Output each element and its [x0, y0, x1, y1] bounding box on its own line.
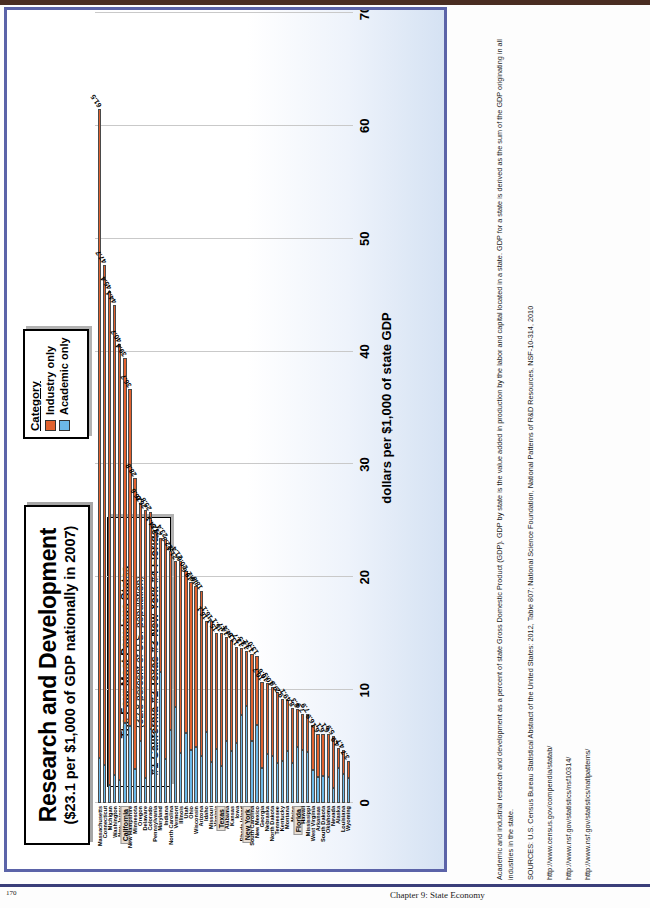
bar-row: 9.8Tennessee: [276, 692, 279, 803]
bar-row: 8.3Florida: [296, 709, 299, 803]
bar-segment-academic-only: [154, 732, 157, 803]
footnote-definition: Academic and industrial research and dev…: [494, 34, 517, 880]
page-bottom-rule: [0, 884, 650, 887]
bar-row: 19.6Ohio: [189, 582, 192, 803]
bar-segment-industry-only: [260, 682, 263, 768]
bar-segment-industry-only: [133, 478, 136, 769]
bar-segment-academic-only: [179, 753, 182, 803]
bar-segment-industry-only: [123, 358, 126, 723]
source-link-nsf10314[interactable]: http://www.nsf.gov/statistics/nsf10314/: [563, 24, 574, 880]
bar-row: 14.4Kansas: [230, 641, 233, 804]
bar-segment-academic-only: [342, 774, 345, 803]
bar-segment-academic-only: [159, 672, 162, 803]
bar-segment-academic-only: [332, 788, 335, 803]
bar-segment-industry-only: [235, 647, 238, 743]
bar-row: 8.4Maine: [291, 708, 294, 803]
bar-row: 6.1South Dakota: [321, 734, 324, 803]
axis-tick-label: 70: [357, 7, 372, 20]
bar-segment-industry-only: [225, 637, 228, 741]
bar-segment-academic-only: [327, 777, 330, 803]
bar-segment-industry-only: [98, 109, 101, 758]
bar-segment-industry-only: [215, 633, 218, 749]
axis-tick-label: 40: [357, 344, 372, 358]
bar-segment-academic-only: [225, 741, 228, 803]
bar-segment-academic-only: [189, 750, 192, 803]
bar-value-label: 61.5: [88, 93, 103, 110]
bar-segment-industry-only: [337, 748, 340, 768]
legend-swatch-academic-icon: [59, 420, 70, 431]
bar-segment-industry-only: [108, 291, 111, 785]
bar-segment-industry-only: [154, 531, 157, 732]
bar-row: 9.2Kentucky: [281, 699, 284, 803]
bar-segment-academic-only: [321, 776, 324, 803]
chapter-footer: Chapter 9: State Economy: [390, 890, 485, 900]
page-top-edge: [0, 0, 650, 5]
bar-segment-academic-only: [123, 723, 126, 803]
bar-segment-academic-only: [133, 769, 136, 803]
bar-segment-academic-only: [316, 777, 319, 803]
bar-row: 3.7Wyoming: [347, 761, 350, 803]
bar-segment-industry-only: [250, 654, 253, 741]
bar-segment-industry-only: [296, 709, 299, 746]
bars-container: 61.5Massachusetts47.7Connecticut45.4Mich…: [97, 13, 351, 803]
bar-row: 13.5New York: [245, 651, 248, 803]
bar-row: 22.3North Carolina: [169, 551, 172, 803]
bar-segment-academic-only: [128, 726, 131, 803]
bar-segment-academic-only: [169, 730, 172, 803]
bar-segment-industry-only: [184, 571, 187, 734]
bar-segment-industry-only: [174, 562, 177, 708]
bar-segment-academic-only: [215, 749, 218, 803]
bar-row: 6.1Oklahoma: [327, 734, 330, 803]
bar-row: 9.1Montana: [286, 700, 289, 803]
bar-segment-industry-only: [301, 714, 304, 750]
bar-row: 21.4Vermont: [174, 562, 177, 804]
bar-segment-industry-only: [220, 633, 223, 766]
bar-segment-academic-only: [286, 751, 289, 803]
bar-segment-industry-only: [291, 708, 294, 763]
bar-row: 25.8Colorado: [149, 512, 152, 803]
source-link-census[interactable]: http://www.census.gov/compendia/statab/: [544, 24, 555, 880]
bar-segment-academic-only: [255, 725, 258, 803]
bar-segment-industry-only: [169, 551, 172, 729]
bar-segment-industry-only: [164, 539, 167, 759]
bar-row: 7.9Hawaii: [301, 714, 304, 803]
legend-item-industry-only: Industry only: [44, 337, 56, 431]
bar-row: 13.2South Carolina: [250, 654, 253, 803]
bar-segment-academic-only: [276, 764, 279, 804]
footer-rotated: Academic and industrial research and dev…: [494, 24, 642, 880]
bar-row: 16.1Idaho: [205, 621, 208, 803]
page-title: Research and Development ($23.1 per $1,0…: [24, 505, 90, 845]
bar-row: 13.7Rhode Island: [240, 648, 243, 803]
bar-row: 10.7Georgia: [260, 682, 263, 803]
bar-row: 21.4Illinois: [179, 562, 182, 804]
bar-row: 15.1Virginia: [215, 633, 218, 803]
bar-row: 26.0Delaware: [144, 510, 147, 803]
bar-segment-industry-only: [347, 761, 350, 778]
bar-segment-academic-only: [291, 764, 294, 804]
bar-row: 10.3North Dakota: [271, 687, 274, 803]
bar-segment-academic-only: [210, 762, 213, 803]
bar-segment-industry-only: [113, 305, 116, 774]
bar-segment-industry-only: [144, 510, 147, 779]
bar-segment-academic-only: [139, 741, 142, 803]
bar-row: 36.7New Hampshire: [128, 389, 131, 803]
bar-segment-academic-only: [311, 770, 314, 803]
bar-segment-academic-only: [108, 785, 111, 803]
bar-segment-academic-only: [266, 754, 269, 803]
bar-segment-academic-only: [306, 752, 309, 803]
bar-segment-academic-only: [149, 729, 152, 803]
bar-segment-academic-only: [205, 732, 208, 803]
bar-row: 26.6Oregon: [139, 503, 142, 803]
bar-segment-academic-only: [301, 750, 304, 803]
bar-row: 14.7Alabama: [225, 637, 228, 803]
source-link-natlpatterns[interactable]: http://www.nsf.gov/statistics/natlpatter…: [582, 24, 593, 880]
bar-segment-industry-only: [245, 651, 248, 706]
bar-segment-academic-only: [337, 768, 340, 803]
legend-label-academic: Academic only: [58, 337, 70, 415]
page-number: 170: [6, 889, 17, 897]
bar-segment-industry-only: [128, 389, 131, 726]
bar-row: 10.6Nebraska: [266, 683, 269, 803]
bar-segment-academic-only: [200, 756, 203, 803]
bar-segment-academic-only: [113, 775, 116, 803]
bar-row: 4.9Alaska: [337, 748, 340, 803]
